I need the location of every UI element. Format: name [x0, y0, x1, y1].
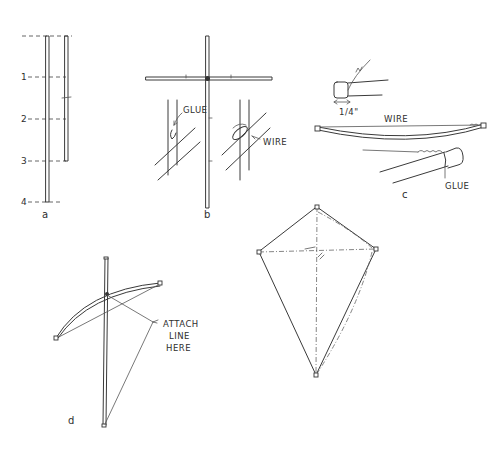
- wire-joint-detail: WIRE: [222, 100, 287, 180]
- wire-callout: WIRE: [263, 137, 287, 147]
- scale-label-4: 4: [21, 197, 27, 207]
- caption-c: c: [402, 189, 408, 200]
- cap-detail-top: 1/4": [334, 60, 388, 117]
- bow-string: [57, 284, 160, 338]
- dimension-label: 1/4": [339, 107, 359, 117]
- panel-c: 1/4" WIRE GLUE c: [315, 60, 486, 200]
- short-stick: [65, 36, 68, 161]
- scale-label-2: 2: [21, 114, 27, 124]
- glue-callout: GLUE: [183, 105, 208, 115]
- kite-construction-diagram: 1 2 3 4 a GLUE: [0, 0, 503, 451]
- attach-callout-line3: HERE: [166, 343, 191, 353]
- bow-inner: [58, 286, 160, 338]
- joint: [205, 76, 210, 81]
- glue-joint-detail: GLUE: [155, 100, 208, 180]
- panel-a: 1 2 3 4 a: [21, 36, 72, 220]
- spine-stick: [206, 36, 209, 208]
- bridle-lower: [105, 322, 153, 424]
- caption-a: a: [42, 209, 48, 220]
- caption-d: d: [68, 415, 74, 426]
- scale-label-3: 3: [21, 156, 27, 166]
- kite-outline: [259, 207, 376, 375]
- long-stick: [46, 36, 49, 202]
- cap-detail-bottom: GLUE: [363, 148, 470, 191]
- wire-label: WIRE: [384, 114, 408, 124]
- attach-callout-line2: LINE: [169, 331, 190, 341]
- panel-b: GLUE WIRE b: [146, 36, 287, 220]
- scale-label-1: 1: [21, 72, 27, 82]
- kite-spar-dashed: [259, 249, 376, 252]
- glue-label: GLUE: [445, 181, 470, 191]
- caption-b: b: [204, 209, 210, 220]
- center-mark: [62, 97, 71, 98]
- panel-e-finished-kite: [257, 205, 378, 377]
- bow-with-wire: WIRE: [315, 114, 486, 139]
- attach-callout-line1: ATTACH: [163, 319, 199, 329]
- kite-spine-dashed: [316, 207, 317, 375]
- panel-d: ATTACH LINE HERE d: [54, 257, 199, 427]
